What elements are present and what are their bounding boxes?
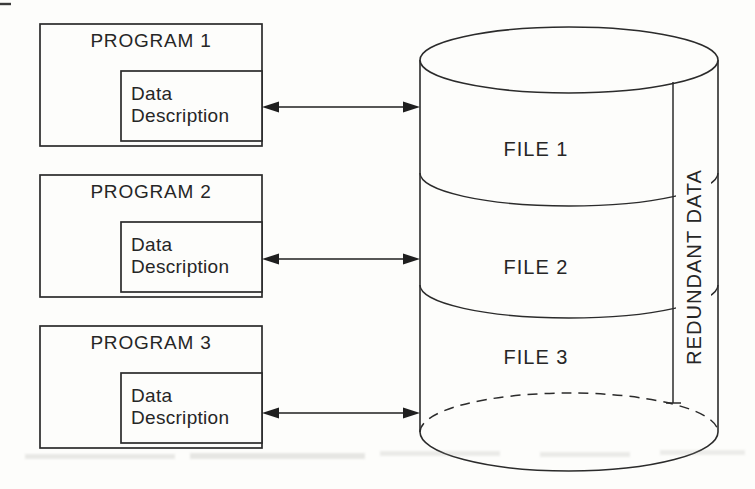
program-label-1: PROGRAM 1 [90, 30, 211, 51]
arrow-left-head-icon [262, 102, 279, 113]
arrow-left-head-icon [262, 408, 279, 419]
arrow-right-head-icon [403, 102, 420, 113]
redundant-data-label: REDUNDANT DATA [683, 169, 705, 365]
arrow-right-head-icon [403, 408, 420, 419]
arrow-program2-storage [262, 254, 420, 265]
arrow-program3-storage [262, 408, 420, 419]
storage-cylinder: REDUNDANT DATA FILE 1 FILE 2 FILE 3 [420, 27, 718, 471]
arrow-right-head-icon [403, 254, 420, 265]
program-block-3: PROGRAM 3 Data Description [40, 326, 262, 448]
program-block-2: PROGRAM 2 Data Description [40, 175, 262, 297]
scan-noise-band [25, 450, 745, 459]
program-label-2: PROGRAM 2 [90, 181, 211, 202]
file-label-1: FILE 1 [504, 138, 569, 160]
arrow-program1-storage [262, 102, 420, 113]
diagram-canvas: REDUNDANT DATA FILE 1 FILE 2 FILE 3 PROG… [0, 0, 755, 489]
program-label-3: PROGRAM 3 [90, 332, 211, 353]
file-label-2: FILE 2 [504, 256, 569, 278]
program-block-1: PROGRAM 1 Data Description [40, 24, 262, 146]
diagram-page: REDUNDANT DATA FILE 1 FILE 2 FILE 3 PROG… [0, 0, 755, 489]
arrow-left-head-icon [262, 254, 279, 265]
file-label-3: FILE 3 [504, 346, 569, 368]
